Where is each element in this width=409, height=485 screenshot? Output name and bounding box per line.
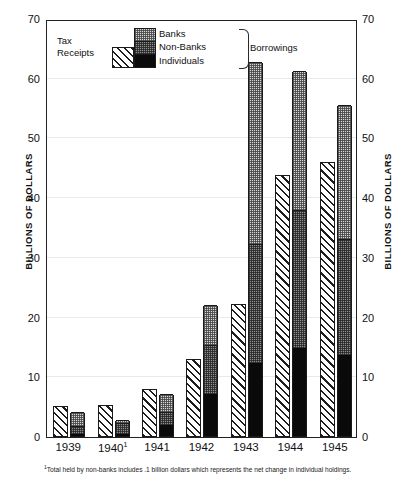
bar-segment-non-banks-1943 <box>249 244 262 363</box>
legend-label-individuals: Individuals <box>159 54 239 67</box>
y-tick-left-10: 10 <box>6 372 40 383</box>
bar-segment-individuals-1942 <box>204 394 217 436</box>
bar-tax-receipts-1944 <box>275 175 290 437</box>
bar-tax-receipts-1941 <box>142 389 157 437</box>
y-tick-right-70: 70 <box>362 14 396 25</box>
footnote-text: Total held by non-banks includes .1 bill… <box>47 466 352 473</box>
bar-segment-banks-1941 <box>160 394 173 412</box>
bar-group-1945 <box>314 21 358 437</box>
legend-swatch-non-banks <box>134 41 156 55</box>
bar-borrowings-1944 <box>292 72 307 437</box>
x-label-1943: 1943 <box>224 441 268 453</box>
y-tick-left-70: 70 <box>6 14 40 25</box>
y-tick-right-40: 40 <box>362 193 396 204</box>
bar-group-1942 <box>180 21 224 437</box>
bar-tax-receipts-1940 <box>98 405 113 437</box>
legend-brace-icon <box>239 29 249 69</box>
legend-tax-line1: Tax <box>57 35 72 46</box>
bar-group-1944 <box>269 21 313 437</box>
y-tick-left-60: 60 <box>6 74 40 85</box>
legend-labels: Banks Non-Banks Individuals <box>159 27 239 67</box>
x-label-1939: 1939 <box>46 441 90 453</box>
x-label-footnote-marker: 1 <box>123 441 127 448</box>
y-tick-left-50: 50 <box>6 133 40 144</box>
legend-label-borrowings: Borrowings <box>250 42 298 53</box>
y-tick-left-40: 40 <box>6 193 40 204</box>
bar-group-1939 <box>47 21 91 437</box>
y-tick-right-0: 0 <box>362 432 396 443</box>
legend-tax-receipts-label: Tax Receipts <box>57 35 111 58</box>
legend-swatch-banks <box>134 28 156 42</box>
bar-chart: BILLIONS OF DOLLARS BILLIONS OF DOLLARS … <box>0 0 409 485</box>
y-tick-right-50: 50 <box>362 133 396 144</box>
legend-tax-line2: Receipts <box>57 47 94 58</box>
legend-swatch-individuals <box>134 54 156 68</box>
bar-tax-receipts-1945 <box>320 162 335 437</box>
y-axis-title-left: BILLIONS OF DOLLARS <box>23 137 34 287</box>
y-tick-right-60: 60 <box>362 74 396 85</box>
y-axis-title-right: BILLIONS OF DOLLARS <box>382 137 393 287</box>
bar-borrowings-1941 <box>159 395 174 437</box>
bar-segment-banks-1940 <box>116 420 129 423</box>
bar-tax-receipts-1939 <box>53 406 68 437</box>
y-tick-right-20: 20 <box>362 313 396 324</box>
plot-area <box>46 20 357 438</box>
footnote: 1Total held by non-banks includes .1 bil… <box>44 463 394 474</box>
bar-tax-receipts-1943 <box>231 304 246 437</box>
bar-series-container <box>47 21 356 437</box>
bar-segment-banks-1942 <box>204 305 217 346</box>
bar-segment-non-banks-1941 <box>160 412 173 425</box>
bar-segment-individuals-1945 <box>338 355 351 436</box>
legend-label-banks: Banks <box>159 27 239 40</box>
x-label-1945: 1945 <box>313 441 357 453</box>
bar-group-1943 <box>225 21 269 437</box>
bar-segment-individuals-1939 <box>71 434 84 436</box>
bar-segment-individuals-1943 <box>249 363 262 436</box>
x-label-1940: 19401 <box>90 441 134 454</box>
y-tick-left-0: 0 <box>6 432 40 443</box>
bar-segment-non-banks-1940 <box>116 423 129 434</box>
bar-segment-banks-1939 <box>71 412 84 426</box>
legend: Tax Receipts Banks Non-Banks Individuals… <box>57 28 272 70</box>
bar-tax-receipts-1942 <box>186 359 201 437</box>
bar-segment-individuals-1941 <box>160 425 173 436</box>
bar-segment-non-banks-1944 <box>293 210 306 347</box>
bar-group-1941 <box>136 21 180 437</box>
bar-segment-banks-1944 <box>293 71 306 211</box>
bar-borrowings-1939 <box>70 413 85 437</box>
bar-segment-individuals-1944 <box>293 348 306 436</box>
y-tick-right-30: 30 <box>362 253 396 264</box>
bar-segment-non-banks-1942 <box>204 345 217 394</box>
bar-segment-individuals-1940 <box>116 434 129 436</box>
x-label-1944: 1944 <box>268 441 312 453</box>
bar-group-1940 <box>91 21 135 437</box>
bar-borrowings-1942 <box>203 306 218 437</box>
x-label-1942: 1942 <box>179 441 223 453</box>
bar-segment-non-banks-1945 <box>338 239 351 355</box>
bar-segment-banks-1945 <box>338 105 351 239</box>
y-tick-left-20: 20 <box>6 313 40 324</box>
bar-borrowings-1943 <box>248 63 263 437</box>
x-label-1941: 1941 <box>135 441 179 453</box>
y-tick-left-30: 30 <box>6 253 40 264</box>
bar-borrowings-1945 <box>337 106 352 437</box>
legend-swatch-tax-receipts <box>112 47 134 68</box>
bar-segment-non-banks-1939 <box>71 426 84 434</box>
legend-label-non-banks: Non-Banks <box>159 40 239 53</box>
y-tick-right-10: 10 <box>362 372 396 383</box>
bar-segment-banks-1943 <box>249 62 262 244</box>
legend-swatch-borrowings-stack <box>134 28 156 68</box>
bar-borrowings-1940 <box>115 421 130 437</box>
